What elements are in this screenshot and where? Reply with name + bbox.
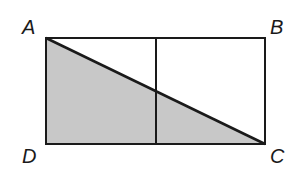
- label-c: C: [270, 145, 285, 167]
- label-d: D: [22, 145, 36, 167]
- label-b: B: [270, 16, 283, 38]
- rectangle-diagram: A B D C: [0, 0, 302, 177]
- label-a: A: [21, 16, 35, 38]
